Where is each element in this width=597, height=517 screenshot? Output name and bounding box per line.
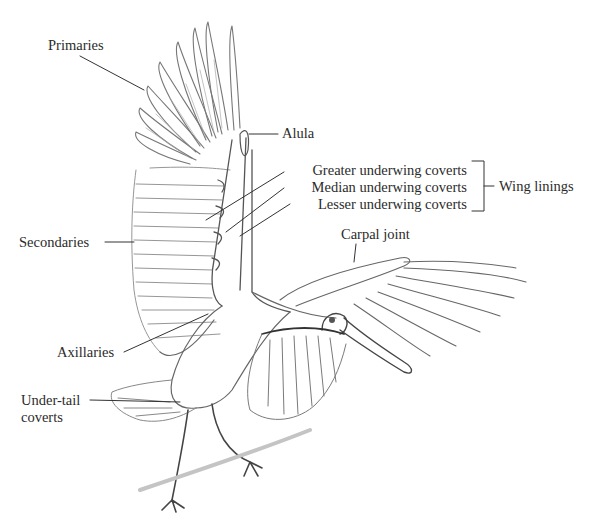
bird-head [322,314,412,373]
right-wing [280,258,526,356]
label-lesser-underwing-coverts: Lesser underwing coverts [284,196,467,213]
label-median-underwing-coverts: Median underwing coverts [284,179,467,196]
label-greater-underwing-coverts: Greater underwing coverts [284,162,467,179]
primaries-feathers [136,22,240,164]
leader-carpal-joint [354,244,356,262]
label-alula: Alula [282,125,314,142]
branch [140,430,310,490]
leader-median-coverts [226,188,284,232]
wing-anatomy-diagram: Primaries Alula Greater underwing covert… [0,0,597,517]
leader-under-tail [90,400,180,402]
bird-illustration [0,0,597,517]
label-carpal-joint: Carpal joint [341,226,410,243]
leader-primaries [80,56,144,90]
label-under-tail-coverts-line1: Under-tail [21,392,80,409]
leader-axillaries [124,314,208,352]
leader-lesser-coverts [240,204,290,236]
label-secondaries: Secondaries [19,234,89,251]
legs-and-feet [162,404,262,512]
alula-feathers [240,131,249,156]
label-axillaries: Axillaries [57,344,114,361]
coverts-band [212,138,290,312]
leader-lines [80,56,494,402]
wing-linings-bracket [472,161,494,211]
label-primaries: Primaries [48,37,104,54]
label-under-tail-coverts-line2: coverts [21,409,63,426]
label-wing-linings: Wing linings [499,178,574,195]
